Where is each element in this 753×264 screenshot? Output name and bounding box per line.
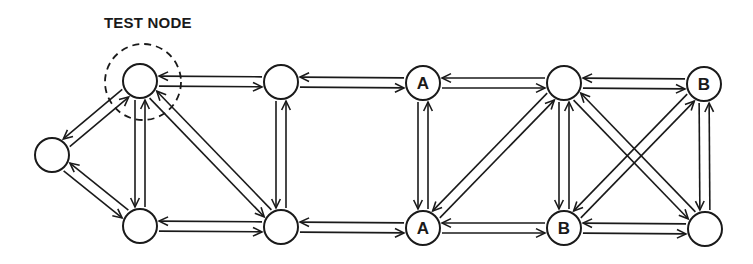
node-label: B (698, 75, 710, 94)
node-n1 (123, 209, 157, 243)
node-label: A (417, 74, 429, 93)
arrow (63, 89, 122, 139)
arrow (300, 83, 404, 92)
node-n4 (547, 66, 581, 100)
arrow (157, 91, 272, 210)
node-B1: B (547, 211, 581, 245)
arrow (300, 73, 404, 82)
arrow (581, 93, 696, 212)
arrow (695, 103, 704, 210)
arrow (64, 171, 122, 218)
arrow (705, 103, 714, 210)
node-n2 (264, 65, 298, 99)
arrow (440, 100, 555, 218)
arrow (442, 229, 545, 238)
arrow (442, 219, 545, 228)
arrow (565, 102, 574, 209)
node-B2: B (687, 67, 721, 101)
arrow (581, 101, 695, 218)
arrow (300, 228, 404, 237)
arrow (442, 84, 545, 93)
arrow (583, 229, 686, 238)
arrow (433, 93, 548, 211)
nodes-layer: AABB (35, 64, 722, 246)
node-L (35, 138, 69, 172)
arrow (141, 100, 150, 207)
arrow (159, 72, 262, 81)
arrow (159, 227, 262, 236)
arrow (414, 102, 423, 209)
arrow (131, 100, 140, 207)
arrow (583, 74, 685, 83)
arrow (574, 94, 688, 211)
arrow (70, 163, 128, 210)
arrow (282, 101, 291, 208)
arrow (159, 217, 262, 226)
node-n5 (688, 212, 722, 246)
node-label: A (417, 219, 429, 238)
arrow (442, 74, 545, 83)
node-A1: A (406, 66, 440, 100)
edges-layer (63, 72, 713, 238)
arrow (70, 97, 129, 147)
network-graph: AABB (0, 0, 753, 264)
arrow (424, 102, 433, 209)
arrow (574, 100, 689, 219)
arrow (159, 82, 262, 91)
node-n0 (123, 64, 157, 98)
node-n3 (264, 210, 298, 244)
arrow (583, 84, 685, 93)
node-label: B (558, 219, 570, 238)
arrow (150, 98, 265, 217)
arrow (272, 101, 281, 208)
node-A2: A (406, 211, 440, 245)
arrow (300, 218, 404, 227)
arrow (583, 219, 686, 228)
arrow (555, 102, 564, 209)
